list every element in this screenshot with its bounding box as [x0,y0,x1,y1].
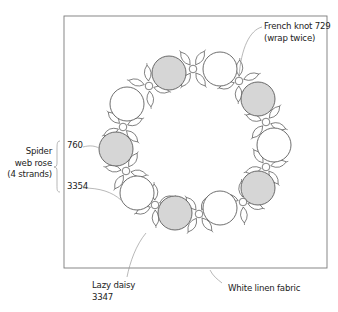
spider-web-rose-760 [99,132,133,166]
french-knot [122,167,130,175]
spider-web-rose-3354 [110,87,144,121]
spider-web-rose-brace [54,141,60,192]
lazy-daisy-label-line2: 3347 [92,292,135,304]
spider-label-line2: web rose [6,158,52,170]
color-760-label: 760 [67,140,83,152]
spider-web-rose-760 [158,196,192,230]
spider-web-rose-760 [241,82,275,116]
french-knot-label-line1: French knot 729 [264,21,330,33]
lazy-daisy-label: Lazy daisy 3347 [92,280,135,303]
spider-web-rose-3354 [203,191,237,225]
french-knot [235,77,243,85]
spider-label-line1: Spider [6,146,52,158]
spider-web-rose-3354 [120,176,154,210]
french-knot [239,198,247,206]
spider-web-rose-3354 [203,52,237,86]
spider-web-rose-label: Spider web rose (4 strands) [6,146,52,181]
spider-label-line3: (4 strands) [6,169,52,181]
french-knot-label: French knot 729 (wrap twice) [264,21,330,44]
spider-web-rose-760 [152,56,186,90]
french-knot [262,163,270,171]
color-3354-label: 3354 [67,181,88,193]
french-knot [195,210,203,218]
fabric-label: White linen fabric [228,283,300,295]
french-knot [189,65,197,73]
french-knot [151,201,159,209]
lazy-daisy-label-line1: Lazy daisy [92,280,135,292]
french-knot [145,82,153,90]
fabric-leader [210,270,222,283]
french-knot-label-line2: (wrap twice) [264,33,330,45]
french-knot [262,118,270,126]
french-knot [119,123,127,131]
spider-web-rose-3354 [257,128,291,162]
